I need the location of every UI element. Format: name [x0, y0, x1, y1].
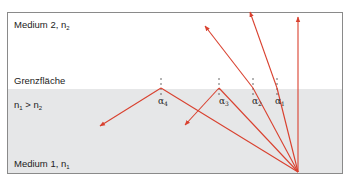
rays [100, 12, 298, 172]
angle-alpha3-label: α3 [219, 96, 229, 107]
angle-alpha4-label: α4 [158, 96, 168, 107]
ray-alpha4-reflected [100, 88, 161, 126]
ray-alpha2-refracted [205, 26, 253, 88]
ray-alpha1-refracted [250, 12, 277, 88]
ray-diagram [0, 0, 351, 181]
angle-alpha1-label: α1 [275, 96, 285, 107]
ray-alpha3-reflected [185, 88, 219, 125]
angle-alpha2-label: α2 [252, 96, 262, 107]
